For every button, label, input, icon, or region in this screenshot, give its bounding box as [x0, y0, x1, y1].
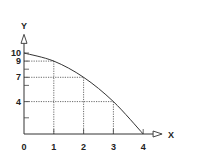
curve-series: [24, 53, 143, 134]
guides: [24, 61, 113, 134]
labels: 0123410974XY: [11, 21, 174, 152]
x-axis-arrow-icon: [153, 131, 162, 137]
x-tick-label: 0: [21, 142, 26, 152]
x-tick-label: 4: [141, 142, 146, 152]
x-tick-label: 1: [51, 142, 56, 152]
curve-line: [24, 53, 143, 134]
chart: 0123410974XY: [0, 0, 204, 155]
y-axis-arrow-icon: [21, 34, 27, 43]
x-axis-label: X: [168, 130, 174, 140]
y-axis-label: Y: [21, 21, 27, 31]
axes: [21, 34, 162, 137]
y-tick-label: 4: [16, 97, 21, 107]
x-tick-label: 2: [81, 142, 86, 152]
y-tick-label: 9: [16, 56, 21, 66]
y-tick-label: 7: [16, 72, 21, 82]
x-tick-label: 3: [111, 142, 116, 152]
